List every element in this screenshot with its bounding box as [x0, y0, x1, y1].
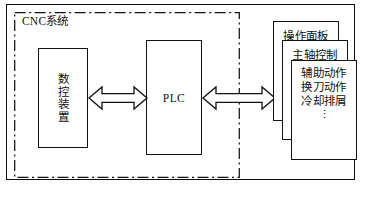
connector-cnc-device-to-plc-icon [89, 84, 147, 112]
card-auxiliary-actions: 辅助动作 换刀动作 冷却排屑 ⋮ [291, 60, 357, 160]
connector-plc-to-functions-icon [203, 84, 275, 112]
card-auxiliary-actions-line-2: 换刀动作 [292, 80, 356, 94]
block-cnc-device-label: 数控装置 [57, 73, 70, 123]
cnc-system-label: CNC系统 [20, 14, 71, 28]
block-plc-label: PLC [163, 92, 185, 104]
card-auxiliary-actions-line-1: 辅助动作 [292, 66, 356, 80]
card-auxiliary-actions-ellipsis: ⋮ [292, 109, 356, 120]
card-auxiliary-actions-lines: 辅助动作 换刀动作 冷却排屑 ⋮ [292, 61, 356, 120]
block-cnc-device: 数控装置 [38, 48, 88, 148]
block-plc: PLC [146, 40, 202, 155]
cnc-system-diagram: CNC系统 数控装置 PLC 操作面板 主轴控制 辅助动作 换刀动作 冷却排屑 … [0, 0, 368, 203]
card-auxiliary-actions-line-3: 冷却排屑 [292, 94, 356, 108]
card-spindle-control-title: 主轴控制 [283, 41, 347, 62]
